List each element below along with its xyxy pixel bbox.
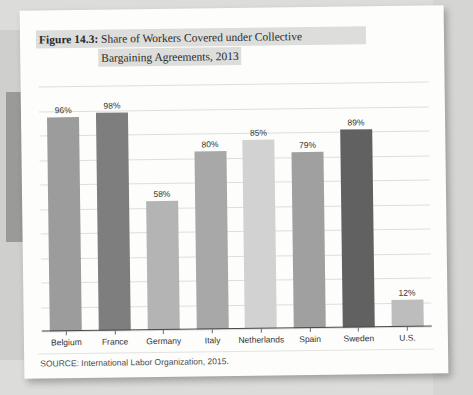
bar: [194, 151, 228, 330]
figure-number-label: Figure 14.3:: [39, 33, 98, 46]
axis-tick: [114, 331, 115, 335]
bar-value-label: 98%: [88, 100, 137, 111]
axis-tick: [163, 330, 164, 334]
bar-value-label: 12%: [383, 288, 432, 299]
bar-value-label: 80%: [186, 139, 235, 150]
axis-tick: [261, 329, 262, 333]
axis-tick: [212, 329, 213, 333]
figure-title: Figure 14.3: Share of Workers Covered un…: [36, 26, 366, 67]
bar-slot: 79%: [282, 83, 334, 329]
bar-slot: 80%: [185, 84, 237, 330]
bar-slot: 98%: [87, 85, 139, 331]
bar: [340, 129, 375, 328]
bar: [243, 139, 277, 329]
bar-slot: 96%: [39, 86, 91, 332]
bar: [292, 152, 326, 328]
category-label: Netherlands: [237, 334, 286, 345]
textbook-page: Figure 14.3: Share of Workers Covered un…: [20, 5, 449, 379]
axis-tick: [358, 327, 359, 331]
chart-bars: 96%98%58%80%85%79%89%12%: [39, 81, 432, 331]
bar-slot: 89%: [331, 82, 383, 328]
chart-category-labels: BelgiumFranceGermanyItalyNetherlandsSpai…: [42, 332, 432, 347]
category-label: Spain: [286, 334, 335, 345]
axis-tick: [407, 327, 408, 331]
bar-value-label: 85%: [234, 127, 283, 138]
axis-tick: [66, 331, 67, 335]
axis-tick: [309, 328, 310, 332]
bar-value-label: 79%: [283, 140, 332, 151]
figure-container: Figure 14.3: Share of Workers Covered un…: [20, 5, 449, 379]
bar-value-label: 96%: [39, 105, 88, 116]
source-note: SOURCE: International Labor Organization…: [40, 356, 229, 368]
bar-value-label: 89%: [332, 117, 381, 128]
bar-slot: 12%: [380, 81, 432, 327]
category-label: Sweden: [334, 333, 383, 344]
category-label: U.S.: [383, 332, 432, 343]
figure-title-text-1: Share of Workers Covered under Collectiv…: [101, 30, 302, 45]
category-label: Belgium: [42, 337, 91, 348]
source-divider: [38, 348, 434, 354]
category-label: Germany: [139, 336, 188, 347]
category-label: Italy: [188, 335, 237, 346]
bar-value-label: 58%: [137, 188, 186, 199]
bar-slot: 58%: [136, 85, 188, 331]
bar: [47, 117, 82, 331]
bar-slot: 85%: [234, 83, 286, 329]
category-label: France: [91, 336, 140, 347]
bar: [146, 201, 180, 331]
figure-title-line-1: Figure 14.3: Share of Workers Covered un…: [36, 26, 366, 48]
bar: [391, 300, 423, 327]
bar: [96, 112, 131, 331]
chart-plot-area: 96%98%58%80%85%79%89%12%: [39, 81, 432, 331]
figure-title-line-2: Bargaining Agreements, 2013: [98, 47, 242, 67]
